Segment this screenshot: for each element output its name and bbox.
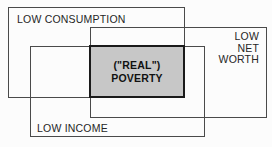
net-worth-label-line-3: WORTH bbox=[219, 54, 259, 66]
low-net-worth-label: LOW NET WORTH bbox=[219, 31, 259, 66]
net-worth-label-line-1: LOW bbox=[219, 31, 259, 43]
intersection-real-poverty-rect: ("REAL") POVERTY bbox=[89, 45, 185, 98]
poverty-label-line-1: ("REAL") bbox=[111, 59, 163, 72]
low-income-label: LOW INCOME bbox=[37, 122, 108, 134]
poverty-label-line-2: POVERTY bbox=[111, 72, 163, 85]
low-consumption-label: LOW CONSUMPTION bbox=[17, 13, 126, 25]
poverty-venn-diagram: ("REAL") POVERTY LOW CONSUMPTION LOW NET… bbox=[0, 0, 272, 147]
intersection-real-poverty-label: ("REAL") POVERTY bbox=[111, 59, 163, 84]
